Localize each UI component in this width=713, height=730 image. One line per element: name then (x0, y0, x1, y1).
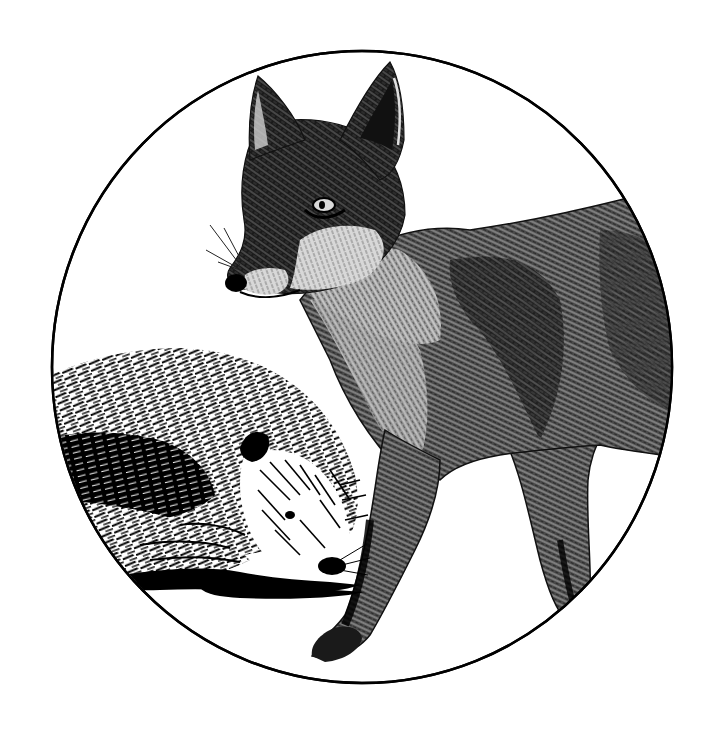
illustration (0, 0, 713, 730)
hedgehog-snout (318, 557, 346, 575)
hedgehog-eye (285, 511, 295, 519)
engraving-svg (0, 0, 713, 730)
fox-nose (225, 274, 247, 292)
